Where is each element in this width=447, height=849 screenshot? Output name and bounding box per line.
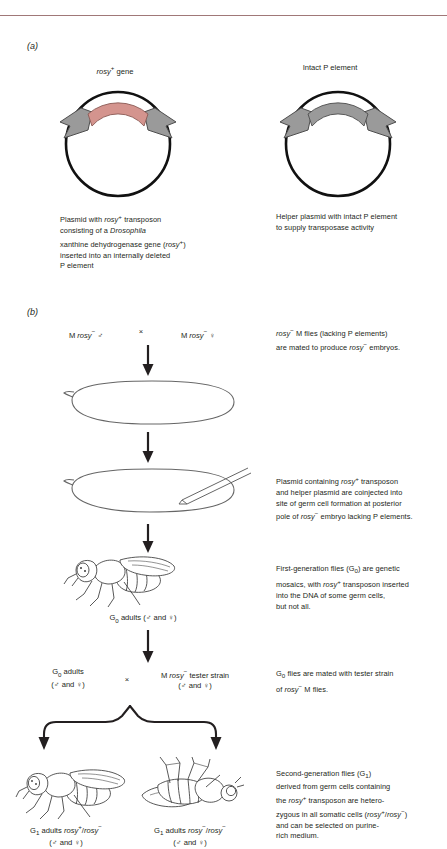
intact-p-right-arrowhead [364, 108, 396, 138]
cross1-female-label: M rosy− ♀ [156, 327, 240, 341]
intact-p-element-title: Intact P element [230, 63, 430, 73]
panel-a-letter: (a) [27, 41, 38, 51]
plasmid-rosy-caption: Plasmid with rosy+ transposon consisting… [60, 212, 250, 272]
caption-line: xanthine dehydrogenase gene (rosy+) [60, 237, 250, 251]
caption-line: rich medium. [276, 831, 447, 842]
fly-thorax [44, 773, 75, 797]
caption-line: Plasmid with rosy+ transposon [60, 212, 250, 226]
cross1-symbol: × [126, 327, 156, 337]
plasmid-helper-caption: Helper plasmid with intact P element to … [276, 212, 447, 233]
g1-het-line2: (♂ and ♀) [4, 838, 128, 848]
embryo-plain [62, 378, 242, 428]
flow-arrow-4 [138, 630, 158, 664]
g1-hom-line2: (♂ and ♀) [128, 838, 252, 848]
brace-left-branch [44, 706, 130, 740]
embryo-outline [72, 469, 234, 512]
caption-line: Plasmid containing rosy+ transposon [276, 474, 447, 488]
rosy-gene-title-tail: gene [114, 67, 133, 76]
g0-adults-label: G0 adults (♂ and ♀) [48, 613, 238, 626]
g0-caption: First-generation flies (G0) are genetic … [276, 564, 447, 612]
caption-line: mosaics, with rosy+ transposon inserted [276, 577, 447, 591]
caption-line: are mated to produce rosy− embryos. [276, 340, 447, 354]
fly-thorax [94, 560, 125, 584]
p-element-left-arrowhead [60, 108, 92, 138]
rosy-gene-title-main: rosy [97, 67, 111, 76]
rosy-gene-title: rosy+ gene [0, 63, 230, 77]
brace-right-arrowhead [211, 737, 222, 750]
g1-homozygous-label: G1 adults rosy−/rosy− (♂ and ♀) [128, 822, 252, 849]
rosy-gene-segment [88, 103, 148, 126]
caption-line: zygous in all somatic cells (rosy+/rosy−… [276, 807, 447, 821]
caption-line: of rosy− M flies. [276, 682, 447, 696]
brace-left-arrowhead [39, 737, 50, 750]
caption-line: to supply transposase activity [276, 223, 447, 234]
cross2-right-label: M rosy− tester strain (♂ and ♀) [140, 667, 250, 691]
g1-heterozygous-label: G1 adults rosy+/rosy− (♂ and ♀) [4, 822, 128, 849]
caption-line: P element [60, 261, 250, 272]
intact-p-left-arrowhead [280, 108, 312, 138]
embryo-injected [62, 464, 252, 520]
g1-fly-heterozygous-illustration [16, 763, 128, 821]
caption-line: Second-generation flies (G1) [276, 769, 447, 782]
intact-p-element-segment [308, 103, 368, 126]
p-element-right-arrowhead [144, 108, 176, 138]
caption-line: but not all. [276, 602, 447, 613]
caption-line: the rosy+ transposon are hetero- [276, 793, 447, 807]
caption-line: and can be selected on purine- [276, 821, 447, 832]
g0-fly-illustration [62, 548, 182, 610]
caption-line: into the DNA of some germ cells, [276, 591, 447, 602]
brace-right-branch [130, 706, 216, 740]
injection-caption: Plasmid containing rosy+ transposon and … [276, 474, 447, 523]
g1-hom-line1: G1 adults rosy−/rosy− [128, 822, 252, 838]
panel-b-letter: (b) [27, 307, 38, 317]
plasmid-rosy-diagram [48, 78, 188, 203]
g1-caption: Second-generation flies (G1) derived fro… [276, 769, 447, 842]
cross2-right-line1: M rosy− tester strain [140, 667, 250, 681]
embryo-anterior-notch [64, 392, 74, 397]
g1-fly-homozygous-illustration [136, 757, 248, 821]
cross2-caption: G0 flies are mated with tester strain of… [276, 669, 447, 696]
embryo-outline [72, 381, 234, 424]
caption-line: site of germ cell formation at posterior [276, 499, 447, 510]
g1-het-line1: G1 adults rosy+/rosy− [4, 822, 128, 838]
split-brace-arrows [22, 700, 242, 758]
caption-line: rosy− M flies (lacking P elements) [276, 326, 447, 340]
caption-line: consisting of a Drosophila [60, 226, 250, 237]
cross2-left-line2: (♂ and ♀) [28, 680, 108, 690]
cross2-left-label: G0 adults (♂ and ♀) [28, 667, 108, 690]
cross2-left-line1: G0 adults [28, 667, 108, 680]
embryo-anterior-notch [64, 480, 74, 485]
caption-line: G0 flies are mated with tester strain [276, 669, 447, 682]
plasmid-helper-diagram [268, 78, 408, 203]
top-divider-rule [0, 15, 447, 16]
cross1-male-label: M rosy− ♂ [46, 327, 126, 341]
cross2-symbol: × [112, 675, 142, 685]
flow-arrow-1 [138, 345, 158, 377]
caption-line: Helper plasmid with intact P element [276, 212, 447, 223]
caption-line: First-generation flies (G0) are genetic [276, 564, 447, 577]
caption-line: inserted into an internally deleted [60, 251, 250, 262]
flow-arrow-2 [138, 432, 158, 464]
cross1-caption: rosy− M flies (lacking P elements) are m… [276, 326, 447, 354]
caption-line: pole of rosy− embryo lacking P elements. [276, 509, 447, 523]
caption-line: derived from germ cells containing [276, 782, 447, 793]
cross2-right-line2: (♂ and ♀) [140, 681, 250, 691]
caption-line: and helper plasmid are coinjected into [276, 488, 447, 499]
